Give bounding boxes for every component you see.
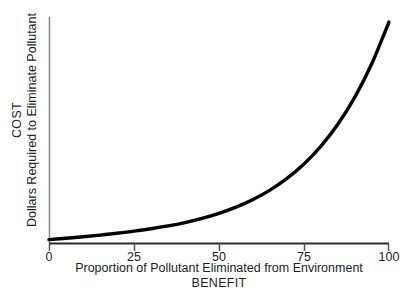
plot-canvas (0, 0, 412, 301)
y-axis-title: Dollars Required to Eliminate Pollutant (25, 0, 39, 240)
x-axis-subtitle: BENEFIT (49, 276, 389, 291)
chart-background (0, 0, 412, 301)
x-axis-title: Proportion of Pollutant Eliminated from … (49, 261, 389, 276)
x-axis-title-group: Proportion of Pollutant Eliminated from … (49, 261, 389, 291)
y-axis-subtitle: COST (10, 0, 24, 240)
y-axis-title-group: COST Dollars Required to Eliminate Pollu… (0, 0, 46, 243)
cost-benefit-chart-figure: 0 25 50 75 100 Proportion of Pollutant E… (0, 0, 412, 301)
